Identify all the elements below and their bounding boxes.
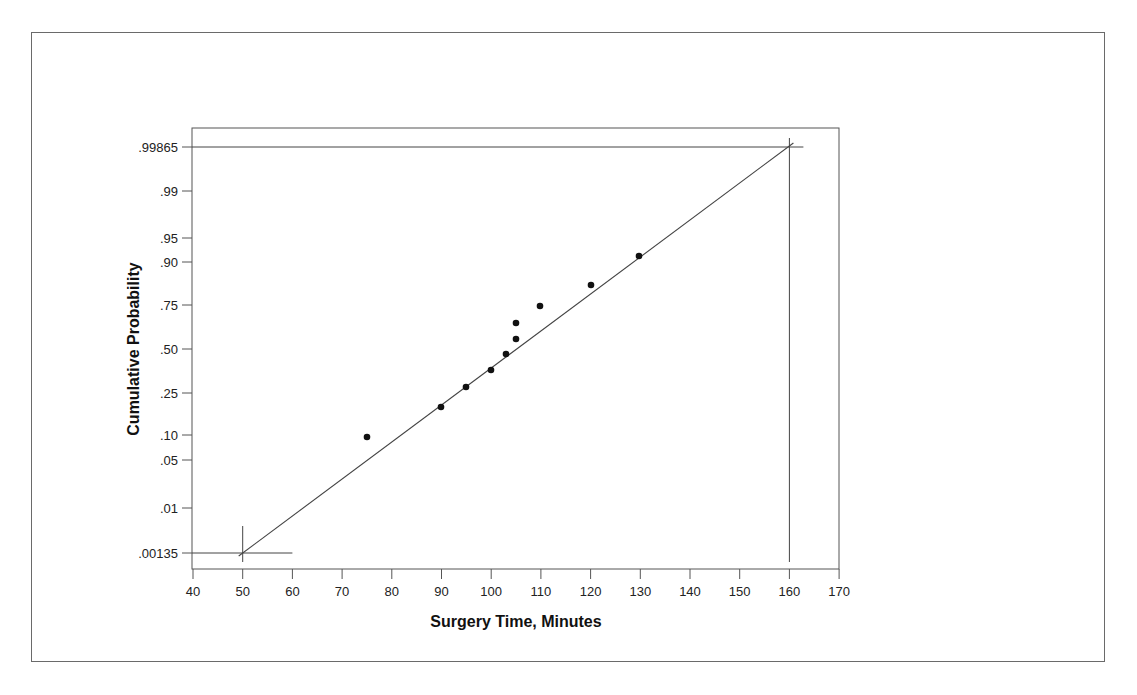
- data-point: [503, 351, 510, 358]
- y-tick-label: .90: [160, 255, 178, 270]
- x-tick-label: 110: [531, 584, 552, 599]
- data-point: [513, 320, 520, 327]
- fitted-normal-line: [239, 143, 794, 556]
- y-axis-title: Cumulative Probability: [125, 262, 142, 435]
- x-tick-label: 40: [186, 584, 200, 599]
- y-tick-label: .75: [160, 298, 178, 313]
- x-tick-label: 130: [629, 584, 651, 599]
- x-tick-label: 50: [235, 584, 249, 599]
- data-point: [463, 384, 470, 391]
- data-points: [364, 253, 643, 441]
- x-tick-label: 100: [480, 584, 502, 599]
- x-tick-label: 160: [779, 584, 801, 599]
- y-tick-label: .99865: [138, 140, 178, 155]
- data-point: [488, 367, 495, 374]
- y-tick-label: .10: [160, 428, 178, 443]
- x-tick-label: 70: [335, 584, 349, 599]
- x-tick-label: 60: [285, 584, 299, 599]
- y-tick-label: .25: [160, 386, 178, 401]
- reference-lines: [192, 138, 803, 562]
- x-tick-label: 80: [385, 584, 399, 599]
- data-point: [438, 404, 445, 411]
- x-tick-label: 90: [434, 584, 448, 599]
- data-point: [636, 253, 643, 260]
- y-tick-label: .05: [160, 453, 178, 468]
- y-tick-label: .01: [160, 501, 178, 516]
- plot-frame: [192, 128, 839, 569]
- y-tick-label: .99: [160, 184, 178, 199]
- y-tick-label: .50: [160, 342, 178, 357]
- data-point: [513, 336, 520, 343]
- data-point: [588, 282, 595, 289]
- y-tick-label: .95: [160, 231, 178, 246]
- x-tick-label: 150: [729, 584, 751, 599]
- x-tick-label: 170: [828, 584, 850, 599]
- x-tick-label: 140: [679, 584, 701, 599]
- fitted-line: [239, 143, 794, 556]
- data-point: [364, 434, 371, 441]
- y-axis: .99865.99.95.90.75.50.25.10.05.01.00135: [138, 140, 192, 561]
- data-point: [537, 303, 544, 310]
- x-axis: 405060708090100110120130140150160170: [186, 569, 850, 599]
- y-tick-label: .00135: [138, 546, 178, 561]
- x-axis-title: Surgery Time, Minutes: [430, 613, 601, 630]
- plot-area: [192, 128, 839, 569]
- normal-probability-plot: .99865.99.95.90.75.50.25.10.05.01.00135 …: [0, 0, 1137, 695]
- x-tick-label: 120: [580, 584, 602, 599]
